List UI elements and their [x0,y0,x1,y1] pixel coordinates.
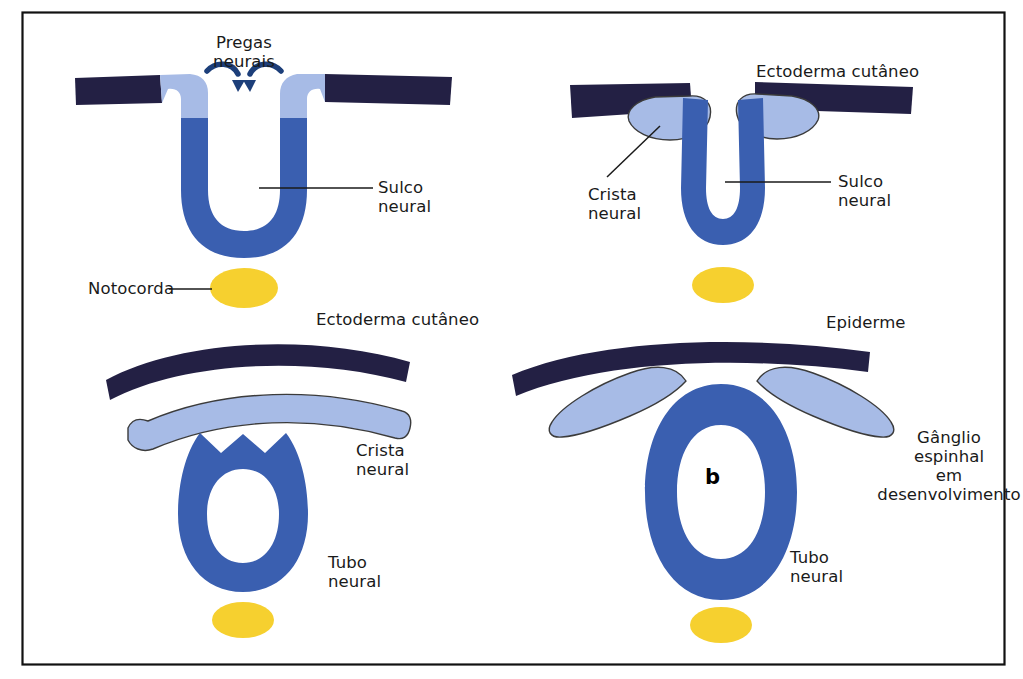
label-sulco-neural-tl: Sulco neural [378,178,431,216]
neural-tube-development-figure: Pregas neurais Sulco neural Notocorda Ec… [0,0,1023,679]
label-ectoderma-cutaneo-tr: Ectoderma cutâneo [756,62,919,81]
panel-letter-b: b [705,465,720,489]
label-ganglio-espinhal: Gânglio espinhal em desenvolvimento [869,428,1023,504]
notochord-oval [210,268,278,308]
notochord-oval-tr [692,267,754,303]
figure-artwork [0,0,1023,679]
label-ectoderma-cutaneo-bl: Ectoderma cutâneo [316,310,479,329]
label-sulco-neural-tr: Sulco neural [838,172,891,210]
label-epiderme: Epiderme [826,313,906,332]
label-notocorda: Notocorda [88,279,174,298]
notochord-oval-bl [212,602,274,638]
surface-ectoderm-band-right [325,74,452,105]
label-crista-neural-tr: Crista neural [588,185,641,223]
label-crista-neural-bl: Crista neural [356,441,409,479]
label-tubo-neural-bl: Tubo neural [328,553,381,591]
label-tubo-neural-br: Tubo neural [790,548,843,586]
notochord-oval-br [690,607,752,643]
surface-ectoderm-band-left [75,75,162,105]
label-pregas-neurais: Pregas neurais [196,33,292,71]
